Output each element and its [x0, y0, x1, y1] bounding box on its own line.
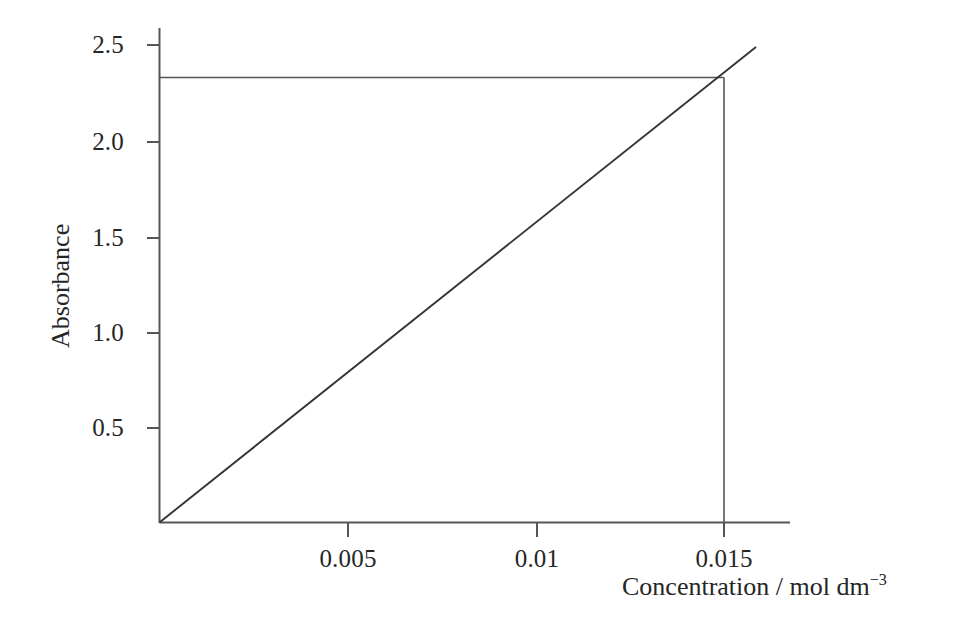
- y-axis-title: Absorbance: [46, 224, 76, 348]
- xtick-label-0.01: 0.01: [515, 545, 560, 573]
- x-axis-title-text: Concentration / mol dm: [622, 572, 870, 601]
- ytick-label-2.0: 2.0: [60, 128, 124, 156]
- x-axis-title-exponent: −3: [870, 571, 887, 588]
- calibration-line: [160, 47, 756, 522]
- x-axis-title: Concentration / mol dm−3: [622, 572, 887, 602]
- plot-area: [0, 0, 965, 627]
- xtick-label-0.005: 0.005: [319, 545, 376, 573]
- absorbance-calibration-chart: 2.5 2.0 1.5 1.0 0.5 0.005 0.01 0.015 Abs…: [0, 0, 965, 627]
- ytick-label-2.5: 2.5: [60, 31, 124, 59]
- ytick-label-0.5: 0.5: [60, 414, 124, 442]
- xtick-label-0.015: 0.015: [695, 545, 752, 573]
